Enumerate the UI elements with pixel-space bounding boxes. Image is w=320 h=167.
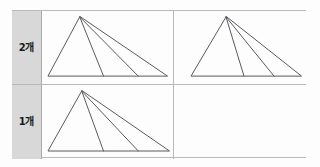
triangle-diagram-r2c1	[42, 85, 173, 159]
cevian-line-1-icon	[80, 17, 104, 76]
cevian-line-2-icon	[80, 17, 139, 76]
triangle-diagram-r1c1	[42, 11, 173, 84]
diagram-cell-r2c2-empty	[174, 85, 306, 159]
cevian-line-2-icon	[82, 91, 139, 151]
cevian-line-1-icon	[82, 91, 104, 151]
table-row: 1개	[12, 85, 306, 159]
diagram-cell-r1c1	[42, 11, 174, 84]
page-root: 2개 1개	[0, 0, 320, 167]
empty-cell-placeholder	[174, 85, 306, 159]
diagram-table: 2개 1개	[12, 10, 306, 158]
row-label-text: 1개	[19, 117, 34, 127]
triangle-outline-icon	[48, 17, 167, 76]
row-label-cell-1: 1개	[12, 85, 42, 159]
row-label-text: 2개	[19, 43, 34, 53]
cevian-line-2-icon	[226, 17, 274, 76]
row-label-cell-2: 2개	[12, 11, 42, 84]
diagram-cell-r1c2	[174, 11, 306, 84]
triangle-diagram-r1c2	[174, 11, 306, 84]
cevian-line-1-icon	[226, 17, 244, 76]
triangle-outline-icon	[191, 17, 301, 76]
triangle-outline-icon	[48, 91, 169, 151]
diagram-cell-r2c1	[42, 85, 174, 159]
table-row: 2개	[12, 11, 306, 85]
